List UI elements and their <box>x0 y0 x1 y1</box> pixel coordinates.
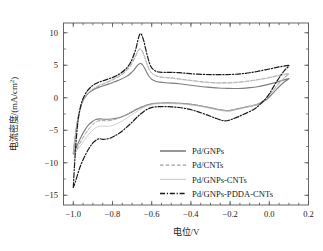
y-axis-title: 电流密度/(mA/cm2) <box>8 77 19 152</box>
x-tick-label: −0.4 <box>183 209 199 219</box>
legend-label-3: Pd/GNPs-CNTs <box>192 175 247 185</box>
legend-label-4: Pd/GNPs-PDDA-CNTs <box>192 189 274 199</box>
x-tick-label: −0.2 <box>222 209 237 219</box>
y-tick-label: −15 <box>45 190 58 200</box>
y-tick-label: −5 <box>49 125 58 135</box>
x-tick-label: 0.2 <box>303 209 314 219</box>
x-tick-label: −0.6 <box>144 209 159 219</box>
y-tick-label: −10 <box>45 158 58 168</box>
y-tick-label: 5 <box>54 60 58 70</box>
y-axis-title-text: 电流密度/(mA/cm2) <box>8 77 19 152</box>
cyclic-voltammogram-chart: −1.0−0.8−0.6−0.4−0.20.00.2 1050−5−10−15 … <box>0 0 323 251</box>
y-tick-label: 0 <box>54 93 58 103</box>
x-axis-title-text: 电位/V <box>173 226 201 237</box>
x-tick-label: −0.8 <box>105 209 120 219</box>
legend-label-1: Pd/GNPs <box>192 146 225 156</box>
x-tick-label: 0.0 <box>264 209 275 219</box>
legend-label-2: Pd/CNTs <box>192 160 224 170</box>
cv-figure: −1.0−0.8−0.6−0.4−0.20.00.2 1050−5−10−15 … <box>0 0 323 251</box>
x-axis-title: 电位/V <box>173 226 201 237</box>
x-tick-label: −1.0 <box>66 209 81 219</box>
y-tick-label: 10 <box>50 28 59 38</box>
